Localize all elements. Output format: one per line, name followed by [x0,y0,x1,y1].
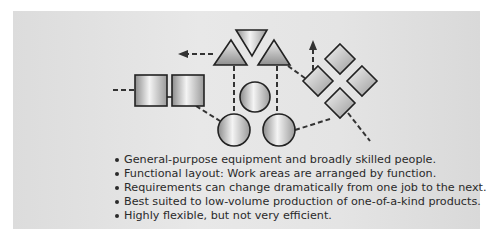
square-workstation-1 [135,75,167,106]
characteristics-list: General-purpose equipment and broadly sk… [115,153,487,223]
arrow-left-icon [178,50,188,58]
diamond-workstation-right [347,66,377,96]
list-item: Functional layout: Work areas are arrang… [115,167,487,181]
circle-workstation-right [263,114,295,146]
triangle-workstation-left [214,40,247,65]
diamond-workstation-top [325,44,355,74]
circle-workstation-top [240,82,270,112]
diamond-workstation-left [303,66,333,96]
list-item: Highly flexible, but not very efficient. [115,209,487,223]
triangle-workstation-inverted [236,30,267,56]
list-item: Requirements can change dramatically fro… [115,181,487,195]
square-workstation-2 [172,75,204,106]
triangle-workstation-right [258,40,290,65]
arrow-up-icon [309,40,317,50]
list-item: General-purpose equipment and broadly sk… [115,153,487,167]
diamond-workstation-bottom [325,88,355,118]
list-item: Best suited to low-volume production of … [115,195,487,209]
circle-workstation-left [218,114,250,146]
